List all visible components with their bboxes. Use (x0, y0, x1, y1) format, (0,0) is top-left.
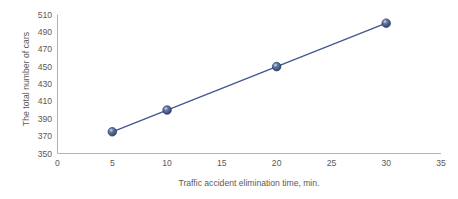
data-series-line (112, 23, 386, 132)
plot-area (0, 0, 458, 199)
chart-container: The total number of cars 350370390410430… (0, 0, 458, 199)
